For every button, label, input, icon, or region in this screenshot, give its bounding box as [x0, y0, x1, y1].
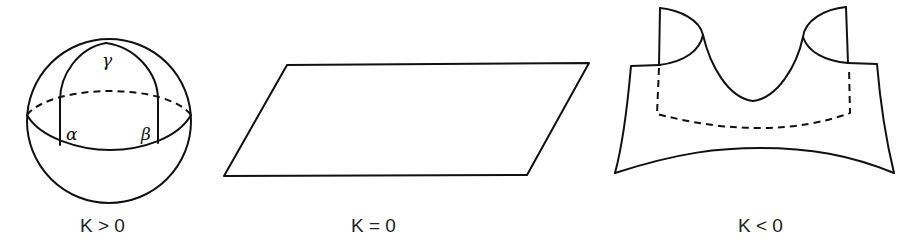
saddle-center-curve: [703, 35, 803, 101]
saddle-right-flange-top: [803, 7, 846, 37]
saddle-right-flange-front: [803, 37, 848, 63]
saddle-left-edge: [615, 65, 660, 173]
saddle-left-flange-back: [659, 8, 660, 65]
saddle-panel: K < 0: [615, 7, 894, 236]
sphere-panel: γ α β K > 0: [27, 39, 191, 236]
caption-positive: K > 0: [80, 215, 125, 236]
caption-zero: K = 0: [351, 215, 396, 236]
saddle-right-flange-back: [846, 7, 848, 63]
angle-label-beta: β: [140, 124, 151, 144]
saddle-bottom-edge: [615, 148, 894, 173]
saddle-hidden-edge: [657, 67, 850, 128]
saddle-left-flange-front: [659, 35, 703, 65]
angle-label-gamma: γ: [102, 50, 113, 70]
saddle-right-edge: [848, 63, 894, 173]
saddle-left-flange-top: [660, 8, 703, 35]
plane-panel: K = 0: [224, 63, 589, 236]
plane-parallelogram: [224, 63, 589, 176]
caption-negative: K < 0: [738, 215, 783, 236]
angle-label-alpha: α: [66, 124, 78, 144]
sphere-equator-back: [27, 91, 191, 115]
curvature-figure: γ α β K > 0 K = 0 K < 0: [0, 0, 919, 249]
sphere-equator-front: [27, 115, 191, 150]
